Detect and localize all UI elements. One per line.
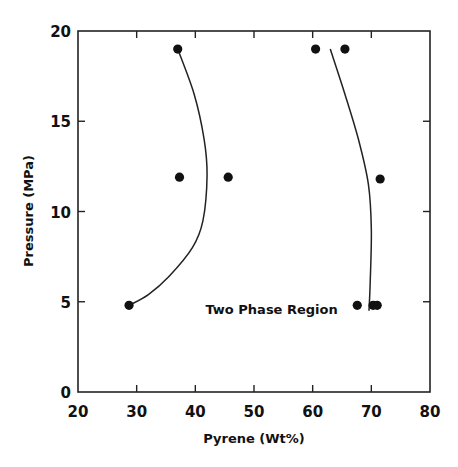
- data-point-marker: [373, 301, 382, 310]
- data-point-marker: [224, 173, 233, 182]
- x-tick-label: 80: [420, 403, 441, 421]
- plot-axes: [78, 31, 430, 392]
- data-point-marker: [173, 44, 182, 53]
- data-point-marker: [376, 174, 385, 183]
- x-axis-label: Pyrene (Wt%): [203, 431, 305, 446]
- data-point-marker: [311, 44, 320, 53]
- y-tick-label: 15: [50, 113, 71, 131]
- phase-diagram-chart: 2030405060708005101520 Pyrene (Wt%) Pres…: [0, 0, 458, 467]
- y-tick-label: 0: [61, 384, 71, 402]
- x-tick-label: 60: [302, 403, 323, 421]
- y-tick-label: 10: [50, 204, 71, 222]
- x-tick-label: 70: [361, 403, 382, 421]
- y-tick-label: 20: [50, 23, 71, 41]
- data-points: [124, 44, 384, 310]
- data-point-marker: [340, 44, 349, 53]
- y-tick-label: 5: [61, 294, 71, 312]
- data-point-marker: [124, 301, 133, 310]
- x-tick-label: 30: [126, 403, 147, 421]
- x-tick-label: 50: [244, 403, 265, 421]
- phase-boundary-curves: [129, 49, 371, 311]
- phase-boundary-line: [330, 49, 371, 311]
- x-tick-label: 20: [68, 403, 89, 421]
- axis-ticks: 2030405060708005101520: [50, 23, 440, 421]
- y-axis-label: Pressure (MPa): [21, 155, 36, 267]
- phase-boundary-line: [129, 49, 207, 305]
- data-point-marker: [175, 173, 184, 182]
- x-tick-label: 40: [185, 403, 206, 421]
- two-phase-region-annotation: Two Phase Region: [205, 302, 337, 317]
- plot-frame: [78, 31, 430, 392]
- data-point-marker: [353, 301, 362, 310]
